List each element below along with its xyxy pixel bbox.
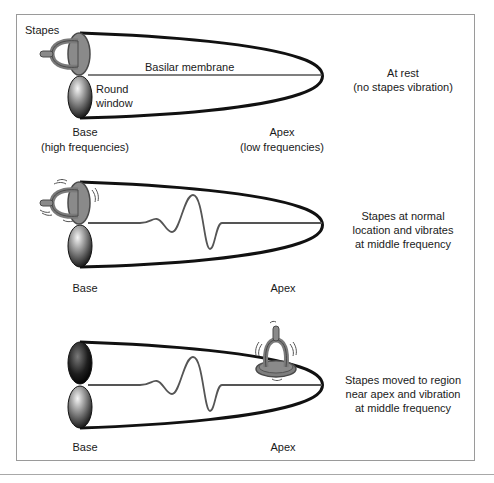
label-basilar-membrane: Basilar membrane	[145, 61, 234, 74]
panel-rest	[40, 33, 323, 118]
label-apex-sub: (low frequencies)	[237, 141, 327, 154]
cochlea-outline	[80, 182, 323, 267]
oval-window-sealed-icon	[68, 342, 92, 384]
description-line: At rest	[333, 66, 473, 80]
label-stapes: Stapes	[25, 24, 59, 37]
description-line: location and vibrates	[333, 223, 473, 237]
label-round-window-2: window	[96, 97, 133, 110]
description-rest: At rest (no stapes vibration)	[333, 66, 473, 94]
label-apex: Apex	[258, 441, 308, 454]
stapes-icon	[40, 182, 90, 224]
round-window-icon	[68, 76, 92, 118]
label-apex: Apex	[258, 282, 308, 295]
panel-normal	[40, 180, 323, 268]
stapes-icon	[256, 326, 296, 377]
description-moved: Stapes moved to region near apex and vib…	[333, 373, 473, 415]
panel-moved	[68, 321, 323, 428]
stapes-icon	[40, 33, 90, 75]
description-line: at middle frequency	[333, 237, 473, 251]
description-line: (no stapes vibration)	[333, 80, 473, 94]
description-line: Stapes at normal	[333, 209, 473, 223]
description-line: Stapes moved to region	[333, 373, 473, 387]
description-line: at middle frequency	[333, 401, 473, 415]
label-base: Base	[60, 441, 110, 454]
round-window-icon	[68, 386, 92, 428]
label-round-window-1: Round	[96, 83, 128, 96]
label-base: Base	[40, 126, 130, 139]
round-window-icon	[68, 225, 92, 267]
description-normal: Stapes at normal location and vibrates a…	[333, 209, 473, 251]
label-base-sub: (high frequencies)	[40, 141, 130, 154]
description-line: near apex and vibration	[333, 387, 473, 401]
label-apex: Apex	[237, 126, 327, 139]
label-base: Base	[60, 282, 110, 295]
